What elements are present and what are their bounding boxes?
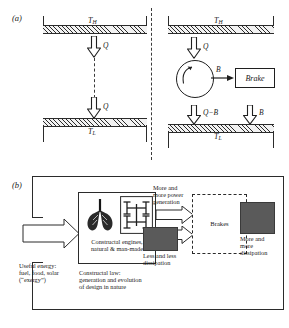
figure-constructal-law: (a) TH Q Q [0,0,289,328]
work-output-arrow [211,74,235,82]
low-dissipation-block [143,227,178,251]
work-label: B [216,66,221,74]
hot-reservoir-left-label: TH [88,17,97,26]
panel-b-tag: (b) [12,180,22,190]
rotation-arrow-icon [180,64,200,96]
reservoir-hatching [43,25,147,34]
high-dissipation-block [240,202,275,234]
reservoir-wall-left [168,131,169,148]
heat-flow-arrow-in-left [87,36,101,58]
heat-flow-arrow-out-left [87,97,101,119]
dashed-heat-path [94,58,95,98]
cold-reservoir-left-label: TL [88,128,96,137]
heat-rejected-arrow [187,105,201,125]
brakes-label: Brakes [192,220,247,227]
reservoir-wall-right [146,125,147,142]
panel-b: (b) Useful energy: fuel, food, solar (“e… [0,170,289,328]
brake-box: Brake [235,68,275,88]
low-dissipation-label: Less and less dissipation [143,252,185,266]
reservoir-hatching [43,118,147,127]
high-dissipation-label: More and more dissipation [240,235,282,256]
frame-stub-top [32,176,33,218]
useful-energy-arrow [22,218,80,262]
panel-divider [151,8,152,160]
heat-flow-arrow-in-right [187,37,201,59]
hot-reservoir-right-label: TH [214,17,223,26]
brake-dissipation-label: B [259,109,264,117]
heat-out-left-label: Q [103,103,108,111]
panel-a: (a) TH Q Q [0,0,289,170]
cold-reservoir-right-label: TL [214,133,222,142]
reservoir-hatching [168,25,274,34]
heat-in-left-label: Q [103,42,108,50]
brake-dissipation-arrow [243,105,257,125]
panel-a-tag: (a) [12,13,22,23]
heat-in-right-label: Q [203,43,208,51]
heat-rejected-label: Q−B [203,109,218,117]
reservoir-hatching [168,124,274,133]
constructal-law-caption: Constructal law: generation and evolutio… [79,269,165,290]
power-generation-label: More and more power generation [153,184,195,205]
reservoir-wall-left [43,125,44,142]
lung-icon [83,196,117,234]
power-generation-arrow [156,206,194,228]
reservoir-wall-right [273,131,274,148]
useful-energy-label: Useful energy: fuel, food, solar (“exerg… [19,262,81,283]
